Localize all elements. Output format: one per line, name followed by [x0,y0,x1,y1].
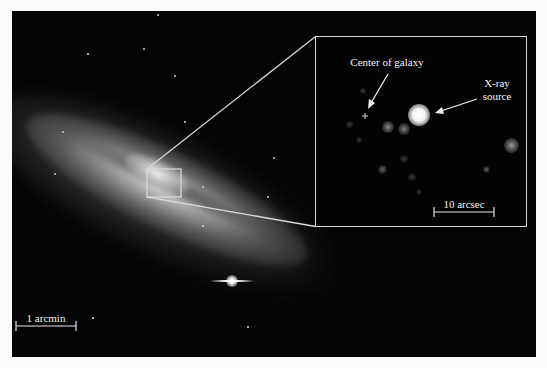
connector-line-top [147,37,316,170]
galaxy-center-marker [362,113,368,119]
arrow-to-center [368,74,388,109]
xray-source-label-line2: source [477,90,517,102]
center-of-galaxy-label: Center of galaxy [350,56,424,68]
scale-bar-1-arcmin-label: 1 arcmin [16,312,76,324]
annotation-overlay [0,0,547,368]
connector-line-bottom [147,197,316,227]
scale-bar-10-arcsec-label: 10 arcsec [434,198,494,210]
xray-source-label-line1: X-ray [477,77,517,89]
arrow-to-xray-source [435,99,477,114]
zoom-region-box [147,169,181,197]
